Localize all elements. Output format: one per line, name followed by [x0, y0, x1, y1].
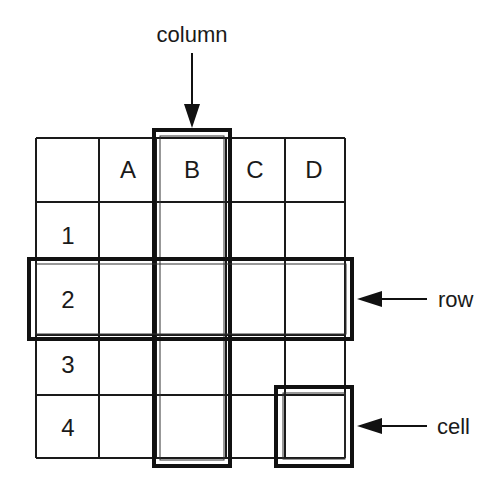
row-header-4: 4 [61, 414, 74, 441]
column-header-a: A [120, 156, 136, 183]
column-header-b: B [184, 156, 200, 183]
row-header-3: 3 [61, 351, 74, 378]
row-label: row [438, 287, 474, 312]
background [0, 0, 503, 485]
column-label: column [157, 22, 228, 47]
row-header-2: 2 [61, 286, 74, 313]
spreadsheet-diagram: A B C D 1 2 3 4 column row cell [0, 0, 503, 485]
cell-label: cell [437, 414, 470, 439]
column-header-d: D [305, 156, 322, 183]
row-header-1: 1 [61, 222, 74, 249]
column-header-c: C [246, 156, 263, 183]
